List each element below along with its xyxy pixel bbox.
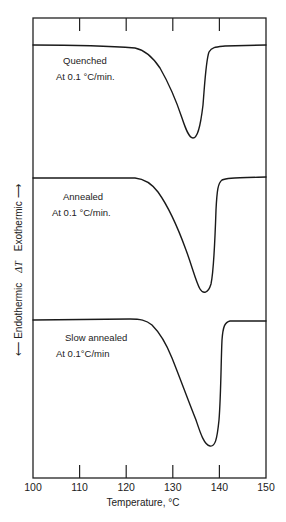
- label-slow-annealed: Slow annealed: [65, 333, 127, 343]
- label-quenched: Quenched: [63, 56, 107, 66]
- label-slow-annealed-rate: At 0.1°C/min: [56, 349, 109, 359]
- x-axis-label: Temperature, °C: [0, 497, 286, 508]
- x-tick-label: 120: [117, 481, 135, 493]
- dta-chart: 100110120130140150: [0, 0, 286, 522]
- x-tick-label: 150: [257, 481, 275, 493]
- x-tick-label: 140: [211, 481, 229, 493]
- x-tick-label: 130: [164, 481, 182, 493]
- label-annealed-rate: At 0.1 °C/min.: [52, 208, 111, 218]
- y-axis-delta-t: ΔT: [13, 261, 24, 272]
- label-annealed: Annealed: [63, 192, 103, 202]
- axis-ticks: [80, 18, 220, 478]
- y-axis-label: ⟵ EndothermicΔTExothermic ⟶: [13, 184, 24, 355]
- y-axis-endothermic: ⟵ Endothermic: [13, 283, 24, 356]
- x-tick-labels: 100110120130140150: [24, 481, 275, 493]
- x-tick-label: 100: [24, 481, 42, 493]
- plot-frame: [33, 18, 266, 478]
- label-quenched-rate: At 0.1 °C/min.: [56, 72, 115, 82]
- x-tick-label: 110: [71, 481, 88, 493]
- y-axis-exothermic: Exothermic ⟶: [13, 184, 24, 251]
